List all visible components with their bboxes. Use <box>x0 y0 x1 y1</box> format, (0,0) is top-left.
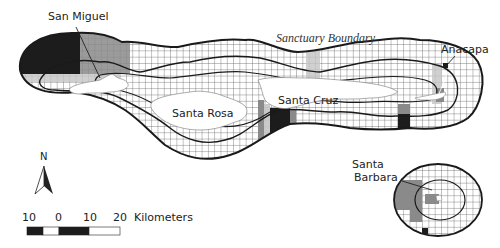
label-santa-barbara-line1: Santa <box>352 158 384 171</box>
label-santa-cruz: Santa Cruz <box>278 94 338 107</box>
santa-barbara-zone <box>390 160 490 240</box>
label-san-miguel: San Miguel <box>48 10 109 23</box>
label-sanctuary-boundary: Sanctuary Boundary <box>276 31 375 46</box>
label-santa-rosa: Santa Rosa <box>172 107 234 120</box>
label-santa-barbara-line2: Barbara <box>354 171 398 184</box>
scale-tick-20: 20 <box>113 211 127 224</box>
label-anacapa: Anacapa <box>441 43 489 56</box>
scale-bar <box>27 227 120 235</box>
island-santa-barbara[interactable] <box>436 195 442 201</box>
north-arrow-label: N <box>40 151 47 162</box>
north-arrow-icon <box>35 166 53 194</box>
map-graphic <box>0 0 500 248</box>
scale-tick-10: 10 <box>83 211 97 224</box>
scale-unit-label: Kilometers <box>134 211 193 224</box>
scale-tick-10-left: 10 <box>22 211 36 224</box>
scale-tick-0: 0 <box>55 211 62 224</box>
map-canvas: San Miguel Sanctuary Boundary Anacapa Sa… <box>0 0 500 248</box>
